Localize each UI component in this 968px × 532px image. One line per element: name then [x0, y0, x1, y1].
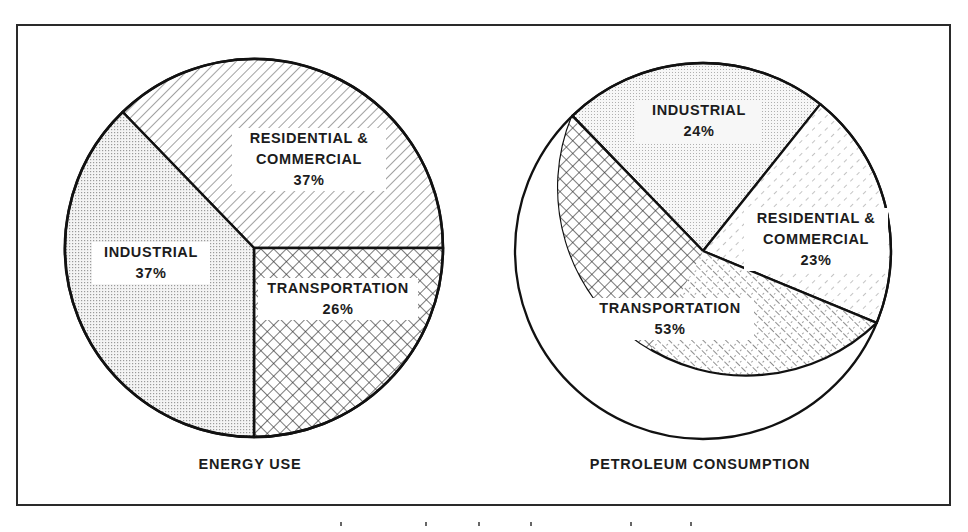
label-line1: INDUSTRIAL [96, 242, 206, 263]
label-percent: 37% [96, 263, 206, 284]
label-percent: 24% [640, 121, 758, 142]
caption-petroleum-consumption: PETROLEUM CONSUMPTION [580, 456, 820, 472]
label-line1: RESIDENTIAL & [236, 128, 382, 149]
label-industrial-petroleum: INDUSTRIAL 24% [636, 100, 762, 142]
label-line1: INDUSTRIAL [640, 100, 758, 121]
label-residential-commercial-petroleum: RESIDENTIAL & COMMERCIAL 23% [744, 208, 888, 271]
caption-energy-use: ENERGY USE [180, 456, 320, 472]
slice-transportation-energy [254, 248, 443, 437]
label-percent: 23% [748, 250, 884, 271]
label-percent: 53% [590, 319, 750, 340]
label-line2: COMMERCIAL [748, 229, 884, 250]
label-line2: COMMERCIAL [236, 149, 382, 170]
label-percent: 37% [236, 170, 382, 191]
label-transportation-energy: TRANSPORTATION 26% [258, 278, 418, 320]
label-transportation-petroleum: TRANSPORTATION 53% [586, 298, 754, 340]
label-line1: RESIDENTIAL & [748, 208, 884, 229]
label-line1: TRANSPORTATION [590, 298, 750, 319]
label-line1: TRANSPORTATION [262, 278, 414, 299]
label-residential-commercial-energy: RESIDENTIAL & COMMERCIAL 37% [232, 128, 386, 191]
label-percent: 26% [262, 299, 414, 320]
cropped-text-remnant [330, 522, 750, 532]
label-industrial-energy: INDUSTRIAL 37% [92, 242, 210, 284]
